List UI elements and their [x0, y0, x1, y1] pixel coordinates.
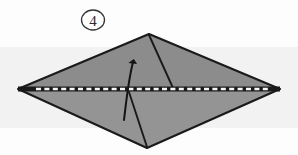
paper-lower-half — [18, 89, 280, 148]
circled-step-number: 4 — [82, 10, 105, 30]
figure-canvas: 4 — [0, 0, 298, 155]
paper-upper-half — [18, 34, 280, 89]
origami-step-diagram: 4 — [0, 0, 298, 155]
step-number-label: 4 — [89, 13, 97, 29]
